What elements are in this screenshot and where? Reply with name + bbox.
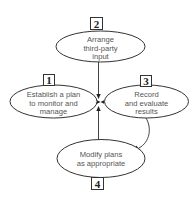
arrowhead-up-icon (96, 106, 100, 111)
arrowhead-down-icon (96, 94, 100, 99)
cycle-diagram: Arrange third-party input 2 Establish a … (0, 0, 195, 200)
node-3-number: 3 (143, 75, 149, 87)
node-4-label-line1: Modify plans (80, 150, 123, 159)
node-2-number: 2 (94, 18, 100, 30)
node-4: Modify plans as appropriate 4 (57, 140, 145, 190)
node-4-label-line2: as appropriate (77, 159, 126, 168)
node-1: Establish a plan to monitor and manage 1 (10, 74, 97, 118)
node-3-label-line3: results (135, 107, 158, 116)
arrowhead-right-icon (97, 100, 101, 103)
node-3: Record and evaluate results 3 (105, 75, 189, 118)
arrow-node3-to-node4 (139, 118, 149, 148)
node-2: Arrange third-party input 2 (56, 18, 145, 63)
node-1-label-line3: manage (40, 107, 67, 116)
node-1-number: 1 (46, 74, 52, 86)
node-4-number: 4 (95, 178, 101, 190)
arrowhead-left-icon (101, 100, 105, 103)
node-2-label-line3: input (92, 52, 109, 61)
